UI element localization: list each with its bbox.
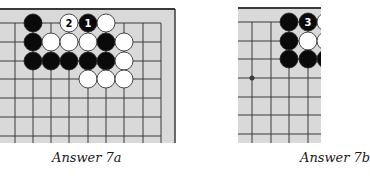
black-stone: 3 — [299, 13, 317, 31]
black-stone — [280, 13, 298, 31]
go-board-answer-7b: 3 — [0, 0, 321, 146]
move-number-label: 3 — [305, 17, 312, 28]
black-stone — [280, 32, 298, 50]
star-point-icon — [250, 76, 255, 81]
black-stone — [299, 50, 317, 68]
go-board-b-svg: 3 — [0, 0, 321, 146]
white-stone — [299, 32, 317, 50]
caption-answer-7b: Answer 7b — [300, 150, 370, 165]
black-stone — [280, 50, 298, 68]
caption-answer-7a: Answer 7a — [52, 150, 122, 165]
